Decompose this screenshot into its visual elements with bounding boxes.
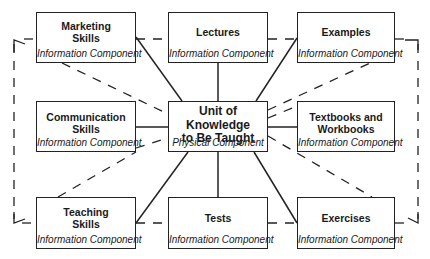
node-title: Exercises: [298, 212, 394, 224]
node-subtitle: Information Component: [37, 234, 135, 246]
node-title: Lectures: [169, 26, 267, 38]
node-examples: Examples Information Component: [297, 12, 395, 63]
node-subtitle: Information Component: [169, 48, 267, 60]
node-title: Marketing Skills: [37, 20, 135, 44]
arrow-top-right-icon: [405, 40, 418, 50]
arrow-bottom-left-icon: [14, 212, 25, 223]
node-marketing-skills: Marketing Skills Information Component: [36, 12, 136, 63]
node-title: Tests: [169, 212, 267, 224]
node-textbooks-workbooks: Textbooks and Workbooks Information Comp…: [297, 101, 395, 152]
node-title: Teaching Skills: [37, 206, 135, 230]
node-subtitle: Information Component: [37, 48, 135, 60]
node-subtitle: Information Component: [298, 48, 394, 60]
node-tests: Tests Information Component: [168, 197, 268, 249]
node-unit-of-knowledge: Unit of Knowledge to Be Taught Physical …: [168, 101, 268, 152]
node-teaching-skills: Teaching Skills Information Component: [36, 197, 136, 249]
node-subtitle: Information Component: [169, 234, 267, 246]
arrow-top-left-icon: [14, 40, 25, 52]
node-title: Examples: [298, 26, 394, 38]
node-lectures: Lectures Information Component: [168, 12, 268, 63]
node-communication-skills: Communication Skills Information Compone…: [36, 101, 136, 152]
node-title: Textbooks and Workbooks: [298, 111, 394, 135]
arrow-bottom-right-icon: [408, 212, 418, 223]
node-subtitle: Physical Component: [169, 137, 267, 149]
node-exercises: Exercises Information Component: [297, 197, 395, 249]
node-subtitle: Information Component: [298, 234, 394, 246]
node-title: Communication Skills: [37, 111, 135, 135]
node-subtitle: Information Component: [37, 137, 135, 149]
dash-teaching-center: [58, 152, 136, 197]
node-subtitle: Information Component: [298, 137, 394, 149]
